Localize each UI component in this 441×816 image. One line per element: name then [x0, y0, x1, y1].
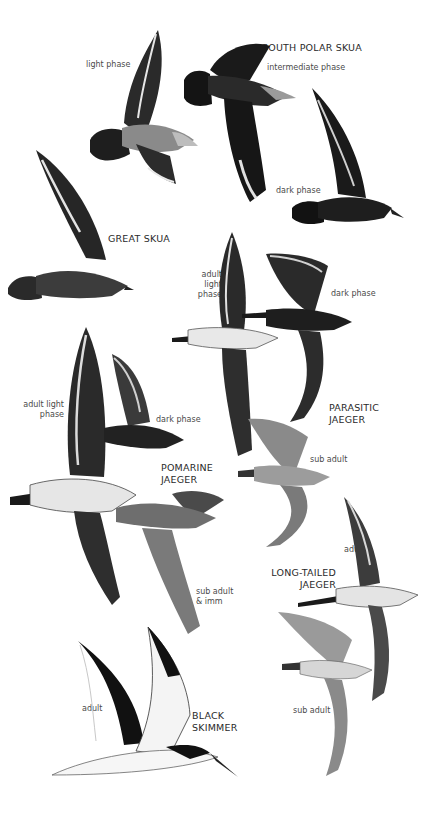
bird-pomarine-jaeger-dark-phase: [100, 352, 190, 462]
species-title-pomarine-jaeger: POMARINE JAEGER: [161, 462, 213, 486]
bird-long-tailed-jaeger-sub-adult: [276, 610, 376, 778]
bird-south-polar-skua-intermediate-phase: [180, 40, 300, 205]
bird-black-skimmer-adult: [50, 625, 240, 785]
bird-pomarine-jaeger-sub-adult-imm: [112, 488, 227, 636]
bird-parasitic-jaeger-dark-phase: [240, 250, 360, 425]
field-guide-plate: SOUTH POLAR SKUA light phase intermediat…: [0, 0, 441, 816]
bird-south-polar-skua-dark-phase: [288, 86, 408, 231]
bird-great-skua: [6, 148, 136, 303]
